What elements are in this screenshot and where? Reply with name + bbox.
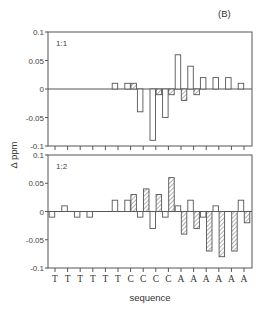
y-tick-label: 0.1 [33,151,45,160]
bar-open [226,78,232,89]
bar-hatched [169,89,175,95]
x-tick-label: T [115,274,121,284]
x-tick-label: T [77,274,83,284]
bar-open [238,83,244,89]
y-tick-label: -0.1 [30,264,44,273]
bar-hatched [131,83,137,89]
y-tick-label: 0.05 [28,179,44,188]
x-tick-label: T [102,274,108,284]
x-tick-label: T [65,274,71,284]
y-tick-label: -0.1 [30,142,44,151]
panel-1: 0.10.050-0.05-0.11:1 [26,28,252,151]
bar-open [112,83,118,89]
x-tick-label: A [241,274,248,284]
bar-open [213,78,219,89]
bar-hatched [219,212,225,257]
bar-open [200,212,206,218]
bar-hatched [156,195,162,212]
y-tick-label: 0 [40,208,45,217]
x-tick-label: A [178,274,185,284]
x-tick-label: A [190,274,197,284]
y-tick-label: -0.05 [26,114,45,123]
bar-open [74,212,80,218]
bar-hatched [131,195,137,212]
bar-open [137,89,143,112]
bar-hatched [194,212,200,229]
bar-open [125,83,131,89]
y-tick-label: -0.05 [26,236,45,245]
bar-hatched [181,212,187,235]
bar-open [125,200,131,211]
figure: (B) 0.10.050-0.05-0.11:10.10.050-0.05-0.… [0,0,266,309]
panel-ratio-label: 1:2 [56,162,68,171]
x-tick-label: C [140,274,146,284]
bar-open [200,78,206,89]
x-tick-label: C [165,274,171,284]
bar-hatched [144,189,150,212]
bar-open [163,89,169,118]
y-axis-title: Δ ppm [8,141,19,168]
x-tick-label: T [90,274,96,284]
bar-hatched [181,89,187,100]
x-tick-label: A [228,274,235,284]
y-tick-label: 0.1 [33,28,45,37]
bar-open [62,206,68,212]
x-tick-label: A [215,274,222,284]
bar-open [175,55,181,89]
bar-open [87,212,93,218]
bar-hatched [169,178,175,212]
bar-hatched [207,212,213,252]
y-tick-label: 0.05 [28,57,44,66]
bar-open [238,200,244,211]
x-axis-title: sequence [129,292,170,303]
x-tick-label: A [203,274,210,284]
bar-hatched [232,212,238,252]
bar-open [188,66,194,89]
bar-hatched [194,89,200,95]
bar-open [188,200,194,211]
bar-open [175,206,181,212]
panel-2: 0.10.050-0.05-0.1TTTTTTCCCCAAAAAA1:2 [26,151,252,284]
y-tick-label: 0 [40,85,45,94]
bar-open [112,200,118,211]
bar-hatched [244,212,250,223]
x-tick-label: T [52,274,58,284]
bar-open [163,212,169,218]
bar-hatched [156,89,162,95]
panel-tag: (B) [218,8,231,19]
bar-open [213,206,219,212]
x-tick-label: C [127,274,133,284]
panel-ratio-label: 1:1 [56,39,68,48]
bar-open [150,89,156,140]
bar-open [137,212,143,218]
bar-open [49,212,55,218]
x-tick-label: C [153,274,159,284]
bar-open [150,212,156,229]
